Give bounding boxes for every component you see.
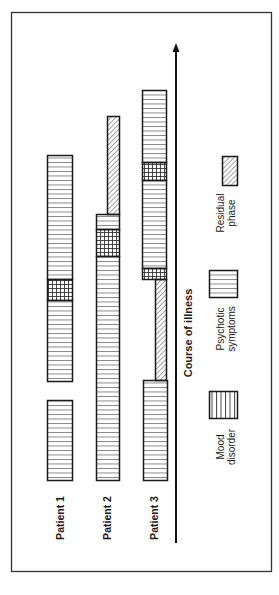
- mood-segment: [143, 269, 167, 280]
- mood-segment: [48, 280, 73, 301]
- psychotic-segment: [97, 215, 120, 230]
- illness-course-diagram: Course of illness Patient 1 Patient 2 Pa…: [0, 0, 279, 595]
- psychotic-segment: [48, 301, 73, 382]
- legend-psychotic-label-line2: symptoms: [226, 306, 237, 352]
- legend-mood-label-line2: disorder: [226, 428, 237, 465]
- mood-segment: [97, 230, 120, 257]
- axis-label: Course of illness: [182, 289, 194, 378]
- legend-residual-swatch: [223, 157, 238, 186]
- psychotic-segment: [143, 181, 167, 269]
- residual-segment: [108, 117, 120, 215]
- mood-segment: [143, 163, 167, 181]
- patient-3-label: Patient 3: [148, 496, 160, 540]
- legend-residual-label-line2: phase: [226, 199, 237, 227]
- psychotic-segment: [144, 381, 168, 481]
- psychotic-segment: [143, 91, 167, 163]
- psychotic-segment: [97, 257, 120, 481]
- legend-psychotic-label-line1: Psychotic: [215, 308, 226, 351]
- legend-psychotic-swatch: [210, 271, 238, 298]
- patient-2-label: Patient 2: [101, 496, 113, 540]
- patient-1-label: Patient 1: [54, 496, 66, 540]
- psychotic-segment: [48, 401, 73, 481]
- legend-mood-swatch: [210, 392, 238, 419]
- legend-mood-label-line1: Mood: [215, 434, 226, 459]
- psychotic-segment: [48, 156, 73, 280]
- patient-1-timeline: [48, 156, 73, 481]
- legend-residual-label-line1: Residual: [215, 194, 226, 233]
- residual-segment: [156, 280, 167, 381]
